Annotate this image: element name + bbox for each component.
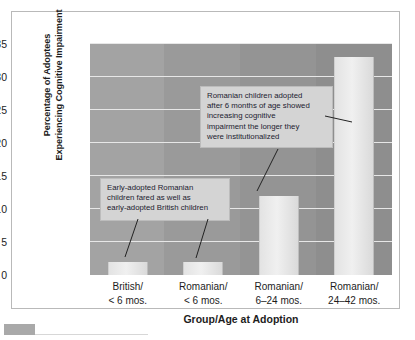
annotation-line: increasing cognitive bbox=[207, 111, 326, 121]
annotation-callout-late-adoption: Romanian children adoptedafter 6 months … bbox=[200, 86, 333, 148]
x-axis-tick-label-line: < 6 mos. bbox=[90, 294, 166, 308]
gridline bbox=[90, 43, 392, 45]
x-axis-tick-label-line: < 6 mos. bbox=[166, 294, 242, 308]
y-axis-tick-label: 5 bbox=[0, 236, 7, 248]
annotation-line: early-adopted British children bbox=[107, 203, 223, 213]
annotation-line: after 6 months of age showed bbox=[207, 101, 326, 111]
footer-rule bbox=[35, 334, 148, 335]
y-axis-tick-label: 0 bbox=[0, 269, 7, 281]
annotation-line: children fared as well as bbox=[107, 193, 223, 203]
x-axis-tick-label-line: Romanian/ bbox=[166, 280, 242, 294]
bar-1 bbox=[108, 262, 148, 275]
bar-4 bbox=[334, 57, 374, 275]
x-axis-tick-label-line: 6–24 mos. bbox=[241, 294, 317, 308]
bar-2 bbox=[183, 262, 223, 275]
annotation-line: were institutionalized bbox=[207, 132, 326, 142]
y-axis-tick-label: 30 bbox=[0, 71, 7, 83]
x-axis-tick-label-3: Romanian/6–24 mos. bbox=[241, 280, 317, 312]
y-axis-tick-label: 10 bbox=[0, 203, 7, 215]
annotation-line: Romanian children adopted bbox=[207, 91, 326, 101]
y-axis-tick-label: 25 bbox=[0, 104, 7, 116]
figure-frame: Percentage of Adoptees Experiencing Cogn… bbox=[11, 11, 400, 309]
annotation-callout-early-adoption: Early-adopted Romanianchildren fared as … bbox=[100, 178, 230, 221]
x-axis-tick-label-1: British/< 6 mos. bbox=[90, 280, 166, 312]
y-axis-tick-label: 15 bbox=[0, 170, 7, 182]
x-axis-tick-label-line: Romanian/ bbox=[241, 280, 317, 294]
x-axis-tick-label-2: Romanian/< 6 mos. bbox=[166, 280, 242, 312]
annotation-line: impairment the longer they bbox=[207, 122, 326, 132]
bar-3 bbox=[259, 196, 299, 275]
x-axis-tick-label-line: Romanian/ bbox=[317, 280, 393, 294]
x-axis-title: Group/Age at Adoption bbox=[90, 313, 392, 325]
x-axis-tick-label-line: 24–42 mos. bbox=[317, 294, 393, 308]
annotation-line: Early-adopted Romanian bbox=[107, 183, 223, 193]
x-axis-tick-labels: British/< 6 mos.Romanian/< 6 mos.Romania… bbox=[90, 280, 392, 312]
x-axis-tick-label-4: Romanian/24–42 mos. bbox=[317, 280, 393, 312]
footer-swatch bbox=[4, 324, 35, 335]
plot-area bbox=[90, 44, 392, 275]
y-axis-tick-label: 35 bbox=[0, 38, 7, 50]
x-axis-tick-label-line: British/ bbox=[90, 280, 166, 294]
y-axis-tick-label: 20 bbox=[0, 137, 7, 149]
